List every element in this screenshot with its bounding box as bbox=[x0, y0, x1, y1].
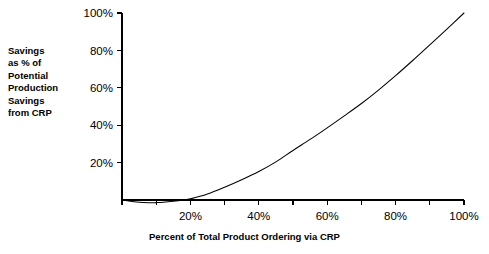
x-tick-label: 20% bbox=[179, 210, 202, 222]
y-axis-tick-labels: 20%40%60%80%100% bbox=[84, 7, 113, 169]
chart-container: Savings as % of Potential Production Sav… bbox=[0, 0, 489, 254]
x-tick-label: 100% bbox=[449, 210, 478, 222]
y-tick-label: 60% bbox=[90, 82, 113, 94]
y-tick-label: 40% bbox=[90, 119, 113, 131]
y-axis-ticks bbox=[117, 13, 122, 163]
y-tick-label: 20% bbox=[90, 157, 113, 169]
x-tick-label: 40% bbox=[247, 210, 270, 222]
y-tick-label: 80% bbox=[90, 45, 113, 57]
plot-area: 20%40%60%80%100% 20%40%60%80%100% bbox=[0, 0, 489, 254]
x-axis-tick-labels: 20%40%60%80%100% bbox=[179, 210, 479, 222]
x-axis-title: Percent of Total Product Ordering via CR… bbox=[0, 231, 489, 242]
savings-curve bbox=[122, 13, 464, 203]
x-axis-ticks bbox=[122, 200, 464, 205]
x-tick-label: 60% bbox=[316, 210, 339, 222]
x-tick-label: 80% bbox=[384, 210, 407, 222]
y-tick-label: 100% bbox=[84, 7, 113, 19]
